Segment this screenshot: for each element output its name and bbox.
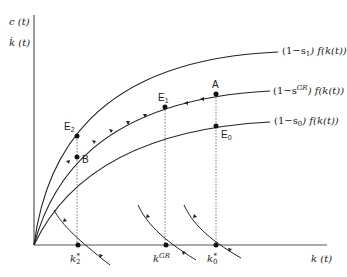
curve-label-sGR: (1−sGR) f(k(t)) (273, 85, 344, 96)
y-axis-label-kdot: k̇ (t) (9, 38, 30, 48)
label-base: E (64, 121, 71, 132)
label-sub: 2 (71, 126, 75, 133)
point-k2 (76, 243, 81, 248)
point-kGR (164, 243, 169, 248)
point-E1 (163, 105, 168, 110)
tick-kGR: kGR (153, 253, 170, 264)
label-A: A (212, 80, 219, 90)
tick-sup: GR (159, 252, 170, 260)
label-E2: E2 (64, 122, 75, 133)
label-suffix: ) f(k(t)) (308, 85, 344, 96)
curve-label-s0: (1−s0) f(k(t)) (274, 116, 339, 128)
tick-sup: * (77, 252, 81, 260)
curve-label-s1: (1−s1) f(k(t)) (282, 46, 347, 58)
label-suffix: ) f(k(t)) (302, 115, 338, 126)
label-E1: E1 (158, 93, 169, 104)
point-k0 (214, 243, 219, 248)
curve-sGR (34, 91, 270, 245)
label-B: B (82, 155, 89, 165)
point-E0 (214, 124, 219, 129)
label-sub: 1 (165, 97, 169, 104)
tick-k0: k0* (207, 253, 217, 266)
label-E0: E0 (221, 130, 232, 141)
point-B (75, 155, 80, 160)
label-suffix: ) f(k(t)) (310, 45, 346, 56)
label-base: E (221, 129, 228, 140)
label-prefix: (1−s (274, 115, 298, 126)
point-E2 (75, 134, 80, 139)
label-sub: 0 (228, 134, 232, 141)
x-axis-label: k (t) (311, 254, 332, 264)
label-base: E (158, 92, 165, 103)
tick-sup: * (214, 252, 218, 260)
curve-s1 (34, 52, 278, 245)
tick-k2: k2* (70, 253, 80, 266)
y-axis-label-c: c (t) (9, 17, 30, 27)
kdot-line-k2 (54, 210, 110, 265)
label-prefix: (1−s (273, 85, 297, 96)
kdot-line-k0 (184, 205, 241, 258)
point-A (214, 92, 219, 97)
label-sup: GR (297, 84, 308, 92)
label-prefix: (1−s (282, 45, 306, 56)
